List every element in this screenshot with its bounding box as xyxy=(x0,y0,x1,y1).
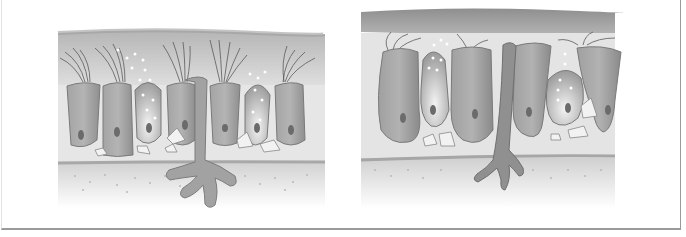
mucus-layer xyxy=(361,8,623,34)
columnar-cell xyxy=(275,83,305,145)
columnar-cell xyxy=(210,83,240,146)
mucus-layer xyxy=(58,30,325,85)
columnar-cell xyxy=(378,49,419,143)
panel-normal-epithelium xyxy=(55,0,325,215)
goblet-cell xyxy=(421,52,449,127)
columnar-cell xyxy=(451,47,493,142)
columnar-cell xyxy=(103,83,133,157)
goblet-cell xyxy=(546,70,583,125)
panel-damaged-epithelium xyxy=(353,0,623,215)
goblet-cell xyxy=(135,83,161,144)
